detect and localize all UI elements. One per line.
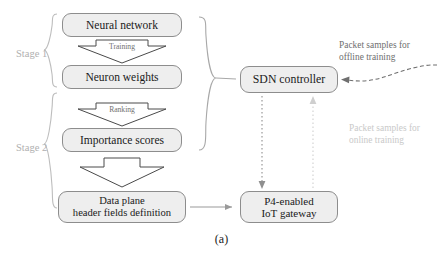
box-p4-gateway-line2: IoT gateway: [261, 207, 316, 219]
box-data-plane-line2: header fields definition: [73, 207, 171, 219]
stage-2-label: Stage 2: [16, 142, 47, 153]
box-importance-scores[interactable]: Importance scores: [62, 128, 182, 152]
figure-canvas: Stage 1 Stage 2 Neural network Neuron we…: [0, 0, 443, 259]
sdn-to-gateway-arrowhead: [259, 181, 266, 189]
figure-caption: (a): [0, 232, 443, 247]
box-p4-gateway-line1: P4-enabled: [261, 195, 316, 207]
box-p4-gateway-text: P4-enabled IoT gateway: [261, 195, 316, 220]
offline-samples-dashed-curve: [348, 65, 437, 81]
training-arrow-label: Training: [99, 42, 145, 51]
box-data-plane-text: Data plane header fields definition: [73, 195, 171, 219]
box-neuron-weights[interactable]: Neuron weights: [62, 65, 182, 89]
box-neuron-weights-label: Neuron weights: [85, 71, 158, 84]
online-training-note: Packet samples for online training: [349, 123, 420, 147]
offline-training-note-line2: offline training: [339, 52, 410, 64]
offline-training-note: Packet samples for offline training: [339, 40, 410, 64]
dataplane-to-gateway-arrowhead: [225, 204, 232, 210]
group-brace-to-sdn: [199, 17, 216, 150]
box-sdn-controller[interactable]: SDN controller: [240, 66, 338, 93]
group-brace-stem: [216, 78, 236, 79]
box-data-plane-line1: Data plane: [73, 195, 171, 207]
box-data-plane[interactable]: Data plane header fields definition: [58, 191, 186, 223]
online-training-note-line2: online training: [349, 135, 420, 147]
box-neural-network[interactable]: Neural network: [62, 13, 182, 37]
box-importance-scores-label: Importance scores: [80, 134, 164, 147]
definition-block-arrow: [80, 158, 164, 187]
box-sdn-controller-label: SDN controller: [253, 73, 325, 86]
offline-samples-arrowhead: [341, 76, 350, 83]
box-p4-gateway[interactable]: P4-enabled IoT gateway: [240, 191, 338, 223]
stage-1-label: Stage 1: [16, 48, 47, 59]
ranking-arrow-label: Ranking: [99, 105, 145, 114]
box-neural-network-label: Neural network: [86, 19, 158, 32]
online-training-note-line1: Packet samples for: [349, 123, 420, 135]
gateway-to-sdn-arrowhead: [310, 96, 317, 104]
offline-training-note-line1: Packet samples for: [339, 40, 410, 52]
